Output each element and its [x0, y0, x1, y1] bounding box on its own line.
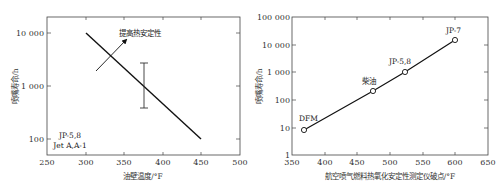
- left-y-tick-10000: 10 000: [16, 29, 44, 38]
- right-x-tick-450: 450: [349, 158, 364, 167]
- right-x-tick-650: 650: [480, 158, 495, 167]
- marker-jp58: [402, 69, 407, 74]
- right-y-tick-100000: 100 000: [257, 13, 290, 22]
- left-x-tick-450: 450: [193, 158, 208, 167]
- left-x-tick-500: 500: [232, 158, 247, 167]
- right-y-tick-1000: 1 000: [267, 68, 290, 77]
- left-data-line: [86, 33, 201, 139]
- label-jp7: JP-7: [445, 26, 461, 35]
- left-chart: 10 000 1 000 100 250 300 350 400 450 500…: [10, 17, 248, 181]
- right-y-tick-100: 100: [275, 96, 290, 105]
- right-x-axis-label: 航空喷气燃料热氧化安定性测定仪破点/°F: [325, 171, 455, 181]
- right-y-tick-10: 10: [280, 124, 290, 133]
- left-x-tick-300: 300: [78, 158, 93, 167]
- marker-diesel: [370, 88, 375, 93]
- right-data-line: [304, 40, 455, 130]
- label-jp58: JP-5,8: [388, 57, 411, 66]
- left-legend-line1: JP-5,8: [58, 131, 81, 140]
- marker-dfm: [301, 127, 306, 132]
- right-x-tick-550: 550: [415, 158, 430, 167]
- label-dfm: DFM: [299, 114, 318, 123]
- left-legend-line2: Jet A,A-1: [52, 141, 86, 150]
- right-plot-frame: [292, 17, 488, 155]
- right-x-tick-400: 400: [317, 158, 332, 167]
- left-y-axis-label: 喷嘴寿命/h: [10, 68, 20, 104]
- left-x-tick-250: 250: [39, 158, 54, 167]
- improve-stability-label: 提高热安定性: [119, 28, 162, 38]
- right-chart: 100 000 10 000 1 000 100 10 1 350 400 45…: [254, 13, 496, 181]
- right-x-tick-350: 350: [284, 158, 299, 167]
- left-y-tick-1000: 1 000: [21, 82, 44, 91]
- right-x-tick-600: 600: [447, 158, 462, 167]
- right-x-tick-500: 500: [382, 158, 397, 167]
- figure: 10 000 1 000 100 250 300 350 400 450 500…: [0, 0, 504, 191]
- marker-jp7: [452, 37, 457, 42]
- right-y-tick-10000: 10 000: [262, 41, 290, 50]
- left-x-tick-400: 400: [155, 158, 170, 167]
- right-y-axis-label: 喷嘴寿命/h: [254, 68, 264, 104]
- left-x-axis-label: 油壁温度/°F: [123, 171, 162, 181]
- label-diesel: 柴油: [362, 76, 376, 86]
- right-x-ticks: [325, 17, 455, 155]
- left-y-tick-100: 100: [29, 135, 44, 144]
- left-x-tick-350: 350: [116, 158, 131, 167]
- left-error-bar: [140, 63, 148, 108]
